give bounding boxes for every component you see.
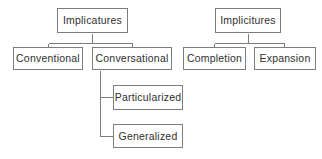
taxonomy-diagram: Implicatures Conventional Conversational… (0, 0, 322, 159)
node-conversational: Conversational (92, 47, 172, 70)
node-completion: Completion (183, 47, 246, 70)
node-particularized: Particularized (113, 85, 183, 110)
node-particularized-label: Particularized (115, 92, 182, 103)
node-generalized-label: Generalized (119, 131, 178, 142)
node-implicitures: Implicitures (215, 8, 281, 33)
node-completion-label: Completion (187, 53, 242, 64)
node-implicatures-label: Implicatures (63, 15, 122, 26)
node-generalized: Generalized (113, 124, 183, 148)
node-expansion-label: Expansion (260, 53, 311, 64)
node-conversational-label: Conversational (96, 53, 169, 64)
node-implicatures: Implicatures (57, 8, 128, 33)
node-conventional: Conventional (13, 47, 83, 70)
node-implicitures-label: Implicitures (220, 15, 276, 26)
node-conventional-label: Conventional (16, 53, 80, 64)
node-expansion: Expansion (254, 47, 316, 70)
